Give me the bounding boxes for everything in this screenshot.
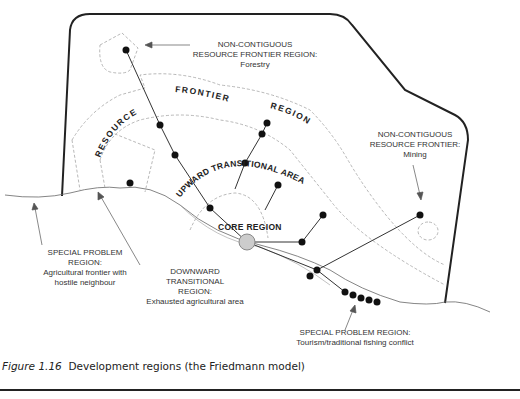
- page-rule: [0, 389, 520, 391]
- frontier-west-edge: [72, 140, 80, 190]
- settlement-node: [207, 205, 214, 212]
- callout-downward-transitional: DOWNWARD TRANSITIONAL REGION: Exhausted …: [145, 267, 245, 307]
- figure-title: Development regions (the Friedmann model…: [68, 360, 304, 372]
- figure-number: Figure 1.16: [2, 360, 62, 372]
- settlement-node: [127, 180, 134, 187]
- settlement-node: [157, 122, 164, 129]
- figure-caption: Figure 1.16 Development regions (the Fri…: [2, 360, 305, 372]
- label-frontier: FRONTIER: [175, 84, 232, 104]
- settlement-node: [358, 295, 365, 302]
- mining-region-boundary: [418, 222, 438, 240]
- settlement-node: [374, 299, 381, 306]
- settlement-node: [275, 182, 282, 189]
- label-region: REGION: [270, 100, 314, 126]
- settlement-node: [417, 212, 424, 219]
- settlement-node: [350, 292, 357, 299]
- callout-mining: NON-CONTIGUOUS RESOURCE FRONTIER: Mining: [355, 130, 475, 160]
- settlement-node: [314, 267, 321, 274]
- settlement-node: [320, 212, 327, 219]
- settlement-node: [264, 120, 271, 127]
- label-core-region: CORE REGION: [218, 222, 282, 232]
- settlement-node: [366, 297, 373, 304]
- forestry-region-boundary: [100, 33, 138, 73]
- callout-special-problem-bottom: SPECIAL PROBLEM REGION: Tourism/traditio…: [290, 328, 420, 348]
- label-resource: RESOURCE: [93, 106, 140, 159]
- label-upward-transitional: UPWARD TRANSITIONAL AREA: [174, 158, 307, 199]
- settlement-node: [307, 273, 314, 280]
- callout-forestry: NON-CONTIGUOUS RESOURCE FRONTIER REGION:…: [190, 40, 320, 70]
- settlement-node: [299, 239, 306, 246]
- settlement-node: [123, 47, 130, 54]
- core-city-node: [239, 234, 255, 250]
- settlement-node: [172, 152, 179, 159]
- settlement-node: [259, 131, 266, 138]
- callout-special-problem-left: SPECIAL PROBLEM REGION: Agricultural fro…: [35, 248, 135, 288]
- settlement-node: [342, 289, 349, 296]
